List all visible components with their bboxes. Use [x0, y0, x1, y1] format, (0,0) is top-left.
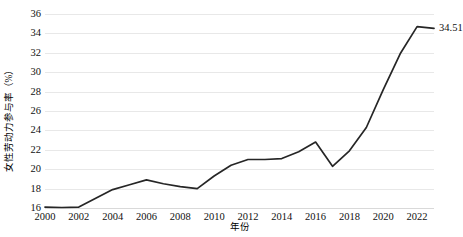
series-line-group — [45, 14, 434, 208]
y-tick-label: 30 — [31, 67, 42, 78]
y-axis-title: 女性劳动力参与率（%） — [0, 0, 16, 237]
y-tick-label: 20 — [31, 164, 42, 175]
x-tick-label: 2006 — [136, 212, 157, 223]
y-tick-label: 18 — [31, 183, 42, 194]
x-tick-label: 2022 — [407, 212, 428, 223]
y-tick-label: 36 — [31, 9, 42, 20]
x-tick-label: 2000 — [35, 212, 56, 223]
x-tick-label: 2020 — [373, 212, 394, 223]
y-tick-label: 28 — [31, 86, 42, 97]
y-tick-label: 32 — [31, 48, 42, 59]
x-axis-title: 年份 — [45, 223, 434, 233]
y-tick-label: 22 — [31, 145, 42, 156]
x-tick-label: 2010 — [204, 212, 225, 223]
x-tick-label: 2014 — [271, 212, 292, 223]
series-line — [45, 27, 434, 208]
x-tick-label: 2012 — [237, 212, 258, 223]
x-tick-label: 2018 — [339, 212, 360, 223]
end-value-label: 34.51 — [439, 23, 463, 34]
x-tick-label: 2004 — [102, 212, 123, 223]
x-tick-label: 2002 — [68, 212, 89, 223]
plot-area: 1618202224262830323436 20002002200420062… — [45, 14, 434, 208]
y-tick-label: 26 — [31, 106, 42, 117]
y-tick-label: 34 — [31, 28, 42, 39]
x-tick-label: 2008 — [170, 212, 191, 223]
gridline — [45, 208, 434, 209]
y-tick-label: 24 — [31, 125, 42, 136]
x-tick-label: 2016 — [305, 212, 326, 223]
